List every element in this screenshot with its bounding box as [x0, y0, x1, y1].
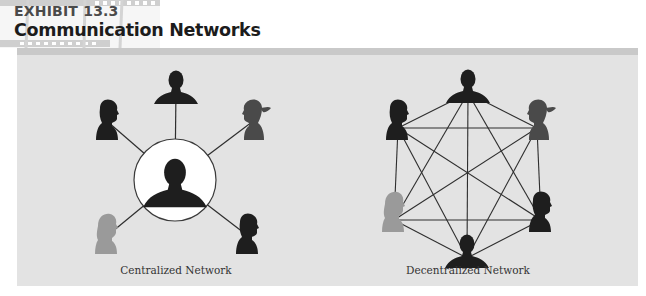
person-icon-mid-right: [529, 191, 552, 232]
person-icon-bottom: [445, 235, 489, 269]
decentralized-edges: [394, 93, 541, 258]
person-icon-top: [446, 70, 490, 104]
edge-line: [467, 128, 537, 258]
person-icon-top: [154, 71, 198, 105]
person-icon-mid-left: [382, 192, 405, 232]
edge-line: [394, 128, 537, 220]
decentralized-network-caption: Decentralized Network: [406, 264, 530, 276]
centralized-network-caption: Centralized Network: [120, 264, 231, 276]
edge-line: [398, 128, 467, 258]
person-icon-upper-left: [386, 99, 409, 140]
person-icon-lower-right: [236, 213, 259, 254]
person-icon-upper-left: [96, 99, 119, 140]
person-icon-upper-right: [527, 99, 556, 140]
person-icon-upper-right: [242, 99, 271, 140]
edge-line: [398, 128, 541, 220]
network-diagrams: [0, 0, 646, 296]
edge-line: [467, 93, 468, 258]
edge-line: [394, 220, 467, 258]
person-icon-lower-left: [95, 214, 118, 254]
